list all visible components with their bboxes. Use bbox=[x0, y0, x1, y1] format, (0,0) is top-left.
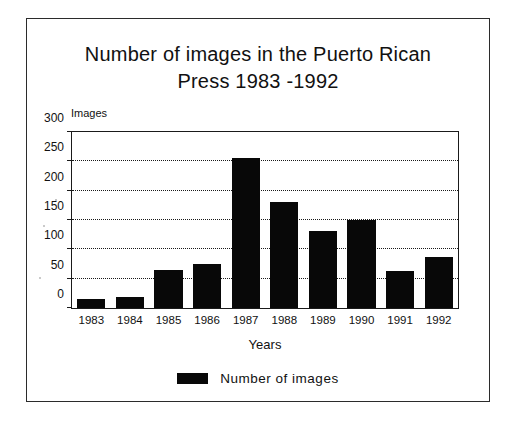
x-tick-label: 1989 bbox=[310, 314, 336, 326]
bar bbox=[425, 257, 453, 308]
y-axis-label: Images bbox=[71, 107, 107, 119]
bar bbox=[270, 202, 298, 308]
legend-swatch-icon bbox=[177, 373, 208, 384]
y-tick-mark bbox=[67, 219, 72, 220]
bar bbox=[232, 158, 260, 308]
legend-label: Number of images bbox=[220, 371, 338, 386]
bar bbox=[347, 220, 375, 308]
figure-frame: Number of images in the Puerto Rican Pre… bbox=[26, 18, 490, 402]
x-tick-label: 1983 bbox=[79, 314, 105, 326]
x-tick-label: 1992 bbox=[426, 314, 452, 326]
bar bbox=[77, 299, 105, 308]
plot-inner: 050100150200250300 198319841985198619871… bbox=[72, 132, 458, 308]
y-tick-label: 300 bbox=[44, 111, 64, 125]
chart-title-line-1: Number of images in the Puerto Rican bbox=[27, 41, 489, 68]
bar bbox=[193, 264, 221, 308]
chart-title-line-2: Press 1983 -1992 bbox=[27, 68, 489, 95]
gridline bbox=[72, 190, 458, 191]
x-tick-label: 1990 bbox=[349, 314, 375, 326]
y-tick-mark bbox=[67, 131, 72, 132]
x-tick-label: 1984 bbox=[117, 314, 143, 326]
y-tick-label: 100 bbox=[44, 228, 64, 242]
gridline bbox=[72, 160, 458, 161]
gridline bbox=[72, 248, 458, 249]
scan-speckle bbox=[39, 277, 41, 279]
x-tick-label: 1986 bbox=[194, 314, 220, 326]
y-tick-mark bbox=[67, 307, 72, 308]
x-tick-label: 1985 bbox=[156, 314, 182, 326]
y-tick-mark bbox=[67, 248, 72, 249]
x-tick-label: 1991 bbox=[387, 314, 413, 326]
bar bbox=[386, 271, 414, 308]
scan-speckle bbox=[43, 225, 45, 227]
y-tick-label: 250 bbox=[44, 140, 64, 154]
y-tick-mark bbox=[67, 190, 72, 191]
plot-area: 050100150200250300 198319841985198619871… bbox=[71, 131, 459, 309]
y-tick-label: 50 bbox=[51, 258, 64, 272]
y-tick-mark bbox=[67, 160, 72, 161]
scan-speckle bbox=[55, 199, 57, 201]
bar bbox=[154, 270, 182, 308]
y-tick-label: 0 bbox=[57, 287, 64, 301]
gridline bbox=[72, 219, 458, 220]
bar bbox=[116, 297, 144, 308]
chart-legend: Number of images bbox=[27, 371, 489, 386]
y-tick-label: 150 bbox=[44, 199, 64, 213]
x-tick-label: 1987 bbox=[233, 314, 259, 326]
x-axis-label: Years bbox=[71, 337, 459, 352]
y-tick-label: 200 bbox=[44, 170, 64, 184]
x-tick-label: 1988 bbox=[272, 314, 298, 326]
bar bbox=[309, 231, 337, 308]
y-tick-mark bbox=[67, 278, 72, 279]
chart-title: Number of images in the Puerto Rican Pre… bbox=[27, 41, 489, 95]
